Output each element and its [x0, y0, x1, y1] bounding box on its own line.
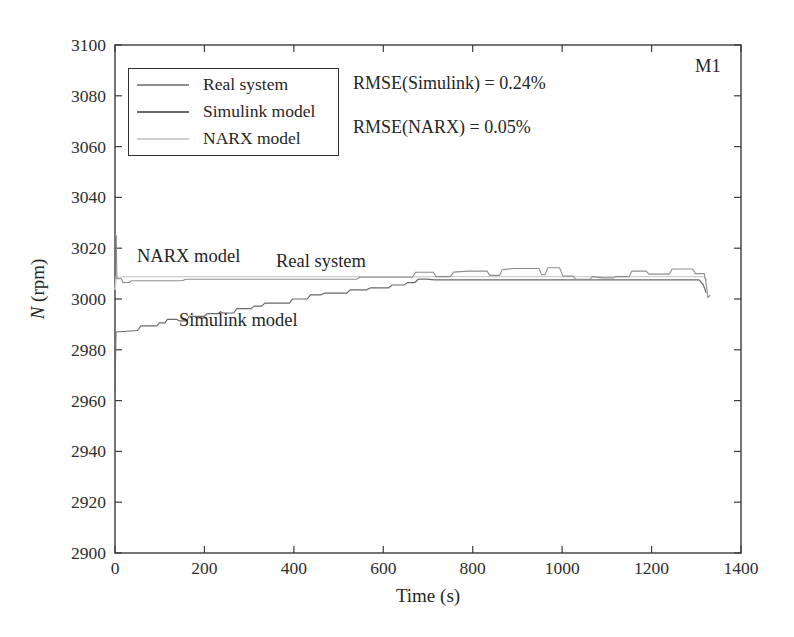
legend-line-simulink-model	[137, 111, 189, 113]
x-tick-label: 200	[191, 558, 218, 578]
y-tick-label: 2980	[71, 340, 106, 360]
y-tick-label: 3100	[71, 35, 106, 55]
y-axis-title: N (rpm)	[27, 189, 49, 389]
x-tick-label: 0	[111, 558, 120, 578]
legend-label-narx-model: NARX model	[203, 130, 301, 148]
y-tick-label: 2900	[71, 543, 106, 563]
y-tick-label: 3020	[71, 238, 106, 258]
y-tick-label: 3040	[71, 187, 106, 207]
legend-label-real-system: Real system	[203, 76, 288, 94]
legend-line-real-system	[137, 84, 189, 86]
y-tick-label: 2960	[71, 391, 106, 411]
rmse-narx-text: RMSE(NARX) = 0.05%	[353, 117, 531, 138]
x-tick-label: 1200	[634, 558, 669, 578]
y-axis-title-variable: N	[27, 307, 48, 320]
y-tick-label: 3060	[71, 137, 106, 157]
x-tick-label: 400	[281, 558, 308, 578]
chart-canvas: 0200400600800100012001400290029202940296…	[0, 0, 794, 637]
inplot-label-narx-model: NARX model	[137, 246, 240, 267]
x-tick-label: 600	[370, 558, 397, 578]
corner-label-m1: M1	[695, 56, 721, 77]
x-tick-label: 800	[460, 558, 487, 578]
rmse-simulink-text: RMSE(Simulink) = 0.24%	[353, 73, 546, 94]
legend-item-real-system: Real system	[129, 74, 338, 96]
legend-item-narx-model: NARX model	[129, 128, 338, 150]
y-axis-title-unit: (rpm)	[27, 259, 48, 307]
legend-line-narx-model	[137, 138, 189, 140]
inplot-label-simulink-model: Simulink model	[179, 310, 298, 331]
x-axis-title: Time (s)	[115, 585, 741, 607]
series-line-simulink-model	[115, 279, 706, 390]
y-tick-label: 2940	[71, 441, 106, 461]
legend: Real system Simulink model NARX model	[128, 68, 339, 156]
y-tick-label: 3080	[71, 86, 106, 106]
legend-item-simulink-model: Simulink model	[129, 101, 338, 123]
inplot-label-real-system: Real system	[276, 251, 366, 272]
legend-label-simulink-model: Simulink model	[203, 103, 315, 121]
x-tick-label: 1000	[545, 558, 580, 578]
figure: 0200400600800100012001400290029202940296…	[0, 0, 794, 637]
x-tick-label: 1400	[724, 558, 759, 578]
y-tick-label: 3000	[71, 289, 106, 309]
y-tick-label: 2920	[71, 492, 106, 512]
